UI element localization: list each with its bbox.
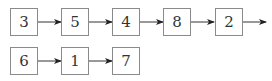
list-node: 2 xyxy=(215,8,243,36)
list-node: 3 xyxy=(10,8,38,36)
list-node: 4 xyxy=(112,8,140,36)
list-node: 6 xyxy=(10,47,38,75)
list-node: 8 xyxy=(163,8,191,36)
list-node: 1 xyxy=(61,47,89,75)
list-node: 5 xyxy=(61,8,89,36)
list-node: 7 xyxy=(112,47,140,75)
